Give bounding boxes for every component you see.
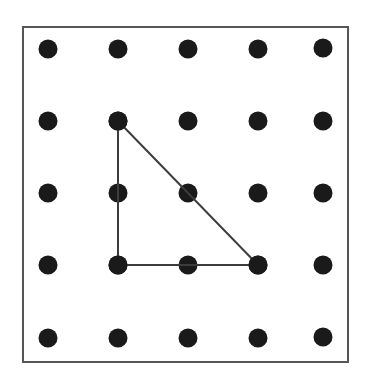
peg-r3c1[interactable] xyxy=(39,184,58,203)
geoboard-figure xyxy=(0,0,369,388)
peg-r3c4[interactable] xyxy=(249,184,268,203)
peg-r5c5[interactable] xyxy=(314,328,333,347)
peg-r4c5[interactable] xyxy=(314,256,333,275)
peg-r1c5[interactable] xyxy=(314,39,333,58)
triangle-vertex-right-angle[interactable] xyxy=(109,256,128,275)
peg-r3c5[interactable] xyxy=(314,184,333,203)
geoboard-canvas xyxy=(0,0,369,388)
peg-r5c4[interactable] xyxy=(249,329,268,348)
peg-r1c3[interactable] xyxy=(179,40,198,59)
triangle-vertex-bottom-right[interactable] xyxy=(249,256,268,275)
triangle-vertex-apex[interactable] xyxy=(109,112,128,131)
peg-r2c5[interactable] xyxy=(314,112,333,131)
peg-r1c1[interactable] xyxy=(39,40,58,59)
peg-r2c3[interactable] xyxy=(179,112,198,131)
peg-r5c1[interactable] xyxy=(39,329,58,348)
peg-r4c1[interactable] xyxy=(39,256,58,275)
peg-r5c3[interactable] xyxy=(179,329,198,348)
peg-r1c4[interactable] xyxy=(249,40,268,59)
peg-r1c2[interactable] xyxy=(109,40,128,59)
peg-r2c4[interactable] xyxy=(249,112,268,131)
peg-r2c1[interactable] xyxy=(39,112,58,131)
peg-r5c2[interactable] xyxy=(109,329,128,348)
